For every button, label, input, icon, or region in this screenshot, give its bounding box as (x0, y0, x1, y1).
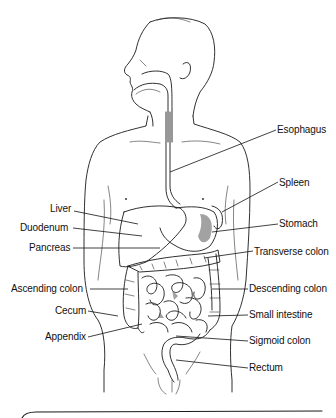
label-descending-colon: Descending colon (249, 283, 327, 295)
stomach (160, 206, 223, 251)
label-pancreas: Pancreas (29, 242, 70, 254)
torso-outline (84, 116, 250, 392)
leader-lines-left (73, 211, 160, 337)
label-spleen: Spleen (279, 177, 310, 189)
descending-colon (208, 254, 220, 330)
label-esophagus: Esophagus (277, 124, 326, 136)
label-ascending-colon: Ascending colon (11, 283, 83, 295)
transverse-colon (128, 250, 220, 272)
label-duodenum: Duodenum (20, 222, 68, 234)
digestive-system-diagram: Liver Duodenum Pancreas Ascending colon … (0, 0, 336, 418)
label-rectum: Rectum (249, 362, 283, 374)
pelvis-lines (144, 352, 200, 394)
label-cecum: Cecum (55, 305, 86, 317)
label-transverse-colon: Transverse colon (254, 246, 329, 258)
appendix (138, 328, 144, 333)
bottom-border (22, 411, 322, 418)
ascending-colon (123, 266, 144, 333)
liver (119, 206, 186, 267)
label-small-intestine: Small intestine (249, 309, 313, 321)
label-liver: Liver (50, 203, 71, 215)
label-stomach: Stomach (279, 218, 318, 230)
label-sigmoid-colon: Sigmoid colon (249, 335, 311, 347)
label-appendix: Appendix (45, 331, 86, 343)
small-intestine (142, 275, 207, 332)
